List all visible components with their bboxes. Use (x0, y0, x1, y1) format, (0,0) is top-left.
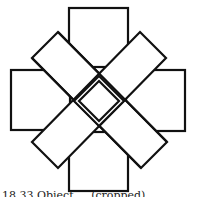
geometric-figure (0, 0, 199, 197)
figure-caption: 18.33 Obiect ... (cropped) (2, 189, 145, 197)
